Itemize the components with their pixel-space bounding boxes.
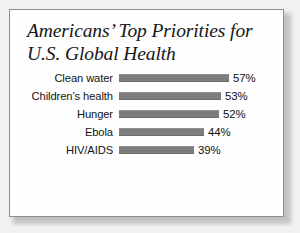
chart-card: Americans’ Top Priorities for U.S. Globa… xyxy=(9,9,284,217)
scan-backdrop: Americans’ Top Priorities for U.S. Globa… xyxy=(0,0,300,233)
bar-fill xyxy=(119,146,194,154)
bar-row: HIV/AIDS 39% xyxy=(10,141,284,159)
bar-track: 57% xyxy=(119,69,284,87)
bar-track: 52% xyxy=(119,105,284,123)
chart-title-line-2: U.S. Global Health xyxy=(27,42,273,65)
bar-value-label: 39% xyxy=(198,144,221,156)
chart-title: Americans’ Top Priorities for U.S. Globa… xyxy=(27,19,273,65)
bar-fill xyxy=(119,74,229,82)
bar-fill xyxy=(119,92,221,100)
bar-track: 39% xyxy=(119,141,284,159)
bar-row: Clean water 57% xyxy=(10,69,284,87)
bar-category-label: Clean water xyxy=(10,72,119,84)
chart-title-line-1: Americans’ Top Priorities for xyxy=(27,19,273,42)
bar-row: Ebola 44% xyxy=(10,123,284,141)
bar-value-label: 44% xyxy=(208,126,231,138)
bar-category-label: Children’s health xyxy=(10,90,119,102)
bar-track: 44% xyxy=(119,123,284,141)
bar-fill xyxy=(119,110,219,118)
bar-track: 53% xyxy=(119,87,284,105)
bar-value-label: 57% xyxy=(233,72,256,84)
bar-value-label: 53% xyxy=(225,90,248,102)
bar-row: Hunger 52% xyxy=(10,105,284,123)
bar-chart-plot: Clean water 57% Children’s health 53% Hu… xyxy=(10,69,284,159)
bar-value-label: 52% xyxy=(223,108,246,120)
bar-category-label: Ebola xyxy=(10,126,119,138)
bar-category-label: HIV/AIDS xyxy=(10,144,119,156)
bar-row: Children’s health 53% xyxy=(10,87,284,105)
bar-category-label: Hunger xyxy=(10,108,119,120)
bar-fill xyxy=(119,128,204,136)
